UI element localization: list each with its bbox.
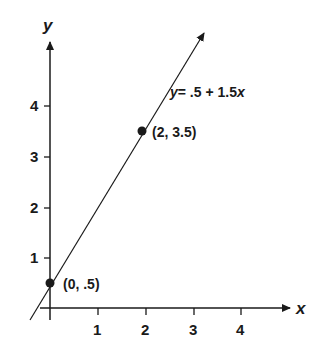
x-tick-label-1: 1 [93, 321, 101, 338]
data-point-a [46, 279, 55, 288]
point-b-label: (2, 3.5) [152, 124, 196, 140]
x-ticks [98, 308, 241, 315]
y-tick-label-1: 1 [30, 249, 38, 266]
y-axis-label: y [42, 16, 54, 35]
data-point-b [138, 127, 147, 136]
y-ticks [44, 106, 50, 258]
point-a-label: (0, .5) [63, 276, 100, 292]
y-tick-label-2: 2 [30, 199, 38, 216]
x-tick-label-2: 2 [141, 321, 149, 338]
equation-label: y= .5 + 1.5x [169, 84, 246, 100]
x-tick-label-3: 3 [189, 321, 197, 338]
y-tick-label-4: 4 [30, 97, 39, 114]
y-tick-label-3: 3 [30, 148, 38, 165]
equation-body: = .5 + 1.5 [178, 84, 237, 100]
equation-x: x [236, 84, 246, 100]
line-chart: 1 2 3 4 1 2 3 4 y x (0, .5) (2, 3.5) y= … [0, 0, 326, 350]
line-series [30, 33, 204, 320]
x-axis-label: x [295, 299, 307, 318]
x-tick-label-4: 4 [236, 321, 245, 338]
